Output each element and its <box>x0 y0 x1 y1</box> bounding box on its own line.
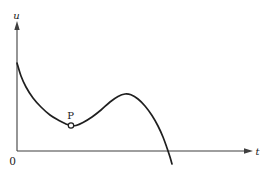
point-p-marker <box>68 123 73 128</box>
figure-container: u t 0 P <box>0 0 268 174</box>
x-axis-label: t <box>256 146 261 157</box>
x-axis-arrow-icon <box>244 148 253 153</box>
y-axis-label: u <box>13 10 19 21</box>
figure-svg: u t 0 P <box>0 0 268 174</box>
origin-label: 0 <box>9 155 16 167</box>
y-axis-arrow-icon <box>14 21 19 30</box>
solution-curve <box>17 63 172 164</box>
point-p-label: P <box>67 110 74 121</box>
